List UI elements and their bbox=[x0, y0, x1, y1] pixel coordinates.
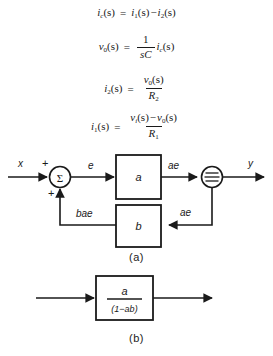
equation-i2: i2(s) = v0(s)R2 bbox=[0, 74, 273, 104]
label-input-x: x bbox=[17, 158, 24, 169]
fraction-denominator: R1 bbox=[146, 126, 162, 141]
fraction-denominator: R2 bbox=[146, 88, 162, 103]
equation-i2-lhs: i2(s) bbox=[104, 82, 122, 96]
block-diagram-a: x + Σ + e a ae y ae b bae bbox=[0, 145, 273, 257]
label-ae-feedback: ae bbox=[180, 207, 192, 218]
fraction-one-over-sc: 1sC bbox=[137, 34, 155, 60]
equation-ic-lhs: ic(s) bbox=[97, 6, 115, 20]
label-ae-forward: ae bbox=[168, 160, 180, 171]
equation-i1-lhs: i1(s) bbox=[91, 120, 109, 134]
equation-ic-rhs: i1(s)−i2(s) bbox=[131, 6, 176, 20]
equation-ic-equals: = bbox=[120, 7, 126, 19]
equation-ic: ic(s) = i1(s)−i2(s) bbox=[0, 6, 273, 20]
equation-v0-lhs: v0(s) bbox=[99, 40, 119, 54]
wire-block-b-to-summer bbox=[60, 189, 116, 225]
label-error-e: e bbox=[88, 160, 94, 171]
closed-loop-block-numerator: a bbox=[121, 285, 127, 297]
caption-b: (b) bbox=[0, 332, 273, 344]
fraction-v0-over-r2: v0(s)R2 bbox=[141, 74, 167, 104]
fraction-vi-minus-v0-over-r1: vi(s)−v0(s)R1 bbox=[127, 112, 180, 142]
fraction-numerator: v0(s) bbox=[141, 74, 167, 88]
forward-block-a-label: a bbox=[135, 171, 141, 183]
feedback-block-b-label: b bbox=[135, 220, 141, 232]
label-output-y: y bbox=[247, 158, 254, 169]
block-diagram-a-canvas: x + Σ + e a ae y ae b bae bbox=[0, 145, 273, 257]
equation-i1: i1(s) = vi(s)−v0(s)R1 bbox=[0, 112, 273, 142]
equation-i1-equals: = bbox=[114, 121, 120, 133]
summing-junction-symbol: Σ bbox=[57, 172, 63, 184]
equation-i2-rhs: v0(s)R2 bbox=[139, 74, 169, 104]
block-diagram-b-canvas: a (1−ab) bbox=[0, 268, 273, 328]
closed-loop-block-denominator: (1−ab) bbox=[111, 304, 137, 314]
equation-list: ic(s) = i1(s)−i2(s) v0(s) = 1sCic(s) i2(… bbox=[0, 0, 273, 145]
sign-plus-top: + bbox=[42, 157, 48, 169]
equation-v0-equals: = bbox=[124, 41, 130, 53]
sign-plus-bottom: + bbox=[48, 187, 54, 199]
equation-v0: v0(s) = 1sCic(s) bbox=[0, 34, 273, 60]
equation-v0-rhs: 1sCic(s) bbox=[135, 34, 174, 60]
label-bae: bae bbox=[76, 208, 93, 219]
fraction-numerator: vi(s)−v0(s) bbox=[127, 112, 180, 126]
caption-a: (a) bbox=[0, 251, 273, 263]
equation-i1-rhs: vi(s)−v0(s)R1 bbox=[125, 112, 182, 142]
block-diagram-b: a (1−ab) bbox=[0, 268, 273, 328]
equation-i2-equals: = bbox=[127, 83, 133, 95]
